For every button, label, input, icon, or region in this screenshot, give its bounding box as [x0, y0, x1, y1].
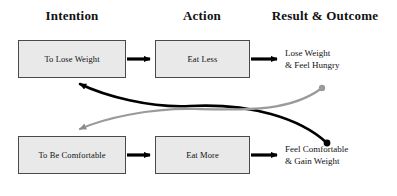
curve-gain-weight-to-lose-weight: [80, 84, 327, 143]
node-eat-more[interactable]: Eat More: [155, 136, 250, 174]
node-to-lose-weight[interactable]: To Lose Weight: [18, 40, 126, 78]
outcome-lose-weight-line1: Lose Weight: [285, 48, 340, 60]
curve-start-dot-feel-hungry: [319, 85, 325, 91]
node-label-eat-less: Eat Less: [188, 54, 218, 64]
outcome-lose-weight-line2: & Feel Hungry: [285, 60, 340, 72]
outcome-gain-weight-line1: Feel Comfortable: [285, 144, 348, 156]
node-label-to-lose-weight: To Lose Weight: [44, 54, 99, 64]
diagram-canvas: Intention Action Result & Outcome To Los…: [0, 0, 397, 196]
node-label-to-be-comfortable: To Be Comfortable: [38, 150, 105, 160]
outcome-gain-weight-line2: & Gain Weight: [285, 156, 348, 168]
node-label-eat-more: Eat More: [186, 150, 219, 160]
curve-feel-hungry-to-be-comfortable: [80, 88, 322, 129]
column-header-result-outcome: Result & Outcome: [272, 8, 378, 24]
outcome-feel-comfortable-gain-weight: Feel Comfortable & Gain Weight: [285, 144, 348, 167]
column-header-intention: Intention: [45, 8, 98, 24]
column-header-action: Action: [183, 8, 221, 24]
outcome-lose-weight-feel-hungry: Lose Weight & Feel Hungry: [285, 48, 340, 71]
node-to-be-comfortable[interactable]: To Be Comfortable: [18, 136, 126, 174]
node-eat-less[interactable]: Eat Less: [155, 40, 250, 78]
